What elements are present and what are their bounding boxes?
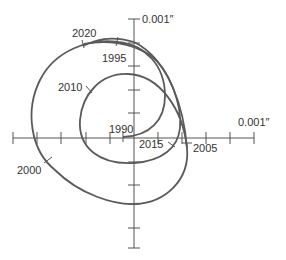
year-label-2005: 2005 bbox=[193, 142, 217, 154]
year-label-2000: 2000 bbox=[17, 164, 41, 176]
year-label-2015: 2015 bbox=[139, 138, 163, 150]
year-label-1990: 1990 bbox=[109, 123, 133, 135]
x-axis-unit-label: 0.001″ bbox=[238, 116, 270, 128]
year-label-2010: 2010 bbox=[58, 81, 82, 93]
inner-loop-curve bbox=[80, 42, 187, 163]
year-label-1995: 1995 bbox=[102, 52, 126, 64]
y-axis-unit-label: 0.001″ bbox=[142, 13, 174, 25]
polar-motion-diagram: 0.001″ 0.001″ 1990 1995 2000 2005 2010 2… bbox=[0, 0, 286, 260]
axes bbox=[13, 19, 254, 248]
year-label-2020: 2020 bbox=[72, 27, 96, 39]
